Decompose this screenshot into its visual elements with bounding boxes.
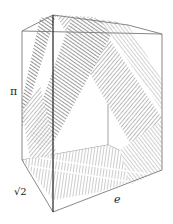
depth-label: √2 <box>14 187 27 197</box>
width-label: e <box>114 194 121 205</box>
height-label: π <box>10 86 17 97</box>
box-diagram: π √2 e <box>0 0 173 224</box>
trajectory-bands <box>22 15 162 200</box>
